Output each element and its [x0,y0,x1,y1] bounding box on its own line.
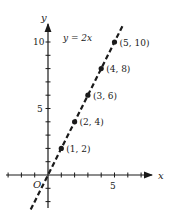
point-label: (1, 2) [66,144,90,154]
y-tick-label-10: 10 [33,37,45,47]
x-axis-label: x [158,170,164,181]
line-y-equals-2x [31,26,123,210]
point-label: (4, 8) [106,64,130,74]
point-label: (5, 10) [120,38,150,48]
point-label: (3, 6) [93,91,117,101]
x-tick-label-5: 5 [110,181,116,191]
data-point [99,66,104,71]
data-point [59,146,64,151]
y-tick-label-5: 5 [37,104,43,114]
origin-label: O [33,179,41,190]
point-label: (2, 4) [80,117,104,127]
data-point [85,93,90,98]
data-point [112,39,117,44]
y-axis-label: y [40,12,47,23]
graph-canvas: (1, 2)(2, 4)(3, 6)(4, 8)(5, 10) y x O y … [0,0,176,212]
data-points: (1, 2)(2, 4)(3, 6)(4, 8)(5, 10) [59,38,150,154]
data-point [72,119,77,124]
equation-label: y = 2x [62,33,92,43]
